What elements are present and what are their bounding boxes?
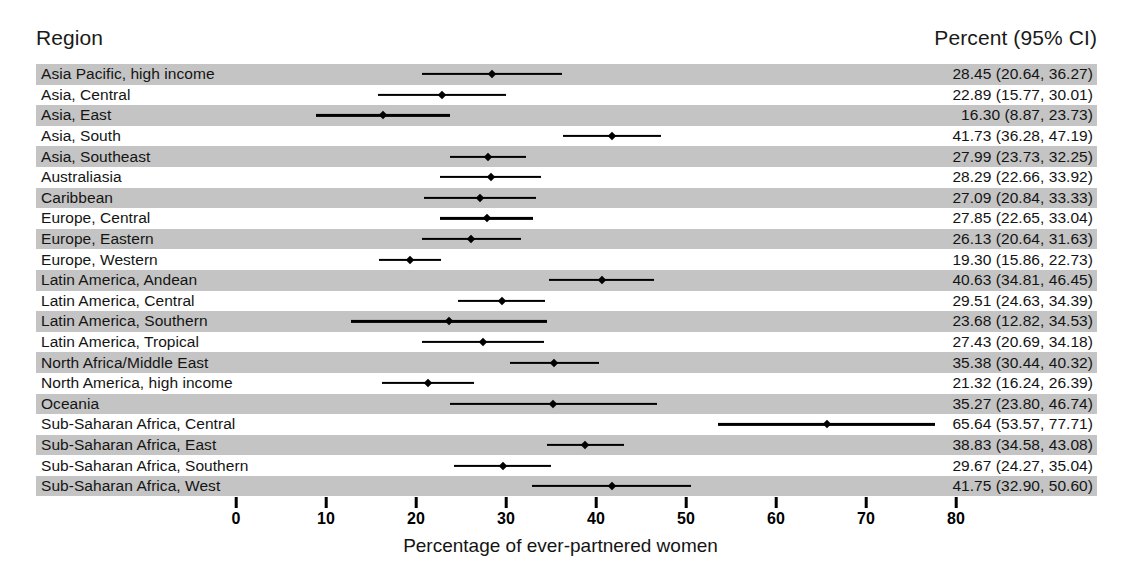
- forest-rows: Asia Pacific, high income28.45 (20.64, 3…: [0, 64, 1121, 496]
- forest-row: Latin America, Southern23.68 (12.82, 34.…: [0, 311, 1121, 332]
- percent-ci-value: 29.67 (24.27, 35.04): [952, 457, 1093, 475]
- percent-ci-value: 19.30 (15.86, 22.73): [952, 251, 1093, 269]
- region-label: Asia, Southeast: [41, 148, 150, 166]
- region-label: North America, high income: [41, 374, 233, 392]
- forest-row: Asia Pacific, high income28.45 (20.64, 3…: [0, 64, 1121, 85]
- row-band: [36, 208, 1097, 229]
- percent-ci-value: 27.09 (20.84, 33.33): [952, 189, 1093, 207]
- header-region-label: Region: [36, 26, 103, 50]
- forest-row: Asia, East16.30 (8.87, 23.73): [0, 105, 1121, 126]
- forest-row: Sub-Saharan Africa, East38.83 (34.58, 43…: [0, 435, 1121, 456]
- forest-row: Asia, Southeast27.99 (23.73, 32.25): [0, 146, 1121, 167]
- forest-row: North Africa/Middle East35.38 (30.44, 40…: [0, 352, 1121, 373]
- percent-ci-value: 28.45 (20.64, 36.27): [952, 65, 1093, 83]
- row-band: [36, 105, 1097, 126]
- region-label: Asia, East: [41, 106, 111, 124]
- percent-ci-value: 27.85 (22.65, 33.04): [952, 209, 1093, 227]
- region-label: Sub-Saharan Africa, West: [41, 477, 220, 495]
- row-band: [36, 167, 1097, 188]
- forest-row: Oceania35.27 (23.80, 46.74): [0, 394, 1121, 415]
- region-label: Asia Pacific, high income: [41, 65, 215, 83]
- forest-row: Sub-Saharan Africa, Central65.64 (53.57,…: [0, 414, 1121, 435]
- region-label: Europe, Western: [41, 251, 158, 269]
- percent-ci-value: 23.68 (12.82, 34.53): [952, 312, 1093, 330]
- percent-ci-value: 35.38 (30.44, 40.32): [952, 354, 1093, 372]
- forest-row: Latin America, Andean40.63 (34.81, 46.45…: [0, 270, 1121, 291]
- row-band: [36, 291, 1097, 312]
- percent-ci-value: 40.63 (34.81, 46.45): [952, 271, 1093, 289]
- percent-ci-value: 21.32 (16.24, 26.39): [952, 374, 1093, 392]
- forest-row: Sub-Saharan Africa, West41.75 (32.90, 50…: [0, 476, 1121, 497]
- region-label: Sub-Saharan Africa, Central: [41, 415, 235, 433]
- axis-tick: [955, 497, 958, 508]
- region-label: Asia, South: [41, 127, 121, 145]
- axis-tick-label: 60: [767, 510, 785, 528]
- region-label: Europe, Central: [41, 209, 150, 227]
- region-label: Europe, Eastern: [41, 230, 154, 248]
- axis-tick: [415, 497, 418, 508]
- x-axis: Percentage of ever-partnered women 01020…: [0, 497, 1121, 571]
- forest-row: Europe, Central27.85 (22.65, 33.04): [0, 208, 1121, 229]
- axis-tick: [685, 497, 688, 508]
- axis-tick-label: 50: [677, 510, 695, 528]
- percent-ci-value: 27.43 (20.69, 34.18): [952, 333, 1093, 351]
- forest-row: Asia, South41.73 (36.28, 47.19): [0, 126, 1121, 147]
- percent-ci-value: 26.13 (20.64, 31.63): [952, 230, 1093, 248]
- forest-row: Latin America, Central29.51 (24.63, 34.3…: [0, 291, 1121, 312]
- axis-tick: [775, 497, 778, 508]
- region-label: Oceania: [41, 395, 99, 413]
- region-label: Australiasia: [41, 168, 122, 186]
- row-band: [36, 85, 1097, 106]
- forest-row: Caribbean27.09 (20.84, 33.33): [0, 188, 1121, 209]
- x-axis-title: Percentage of ever-partnered women: [0, 535, 1121, 557]
- axis-tick: [865, 497, 868, 508]
- region-label: Latin America, Andean: [41, 271, 197, 289]
- axis-tick-label: 10: [317, 510, 335, 528]
- header-percent-label: Percent (95% CI): [934, 26, 1097, 50]
- axis-tick: [325, 497, 328, 508]
- region-label: Sub-Saharan Africa, Southern: [41, 457, 248, 475]
- axis-tick-label: 80: [947, 510, 965, 528]
- forest-row: Europe, Eastern26.13 (20.64, 31.63): [0, 229, 1121, 250]
- region-label: Asia, Central: [41, 86, 130, 104]
- percent-ci-value: 38.83 (34.58, 43.08): [952, 436, 1093, 454]
- region-label: Latin America, Central: [41, 292, 195, 310]
- region-label: North Africa/Middle East: [41, 354, 208, 372]
- axis-tick-label: 40: [587, 510, 605, 528]
- axis-tick-label: 30: [497, 510, 515, 528]
- row-band: [36, 188, 1097, 209]
- percent-ci-value: 29.51 (24.63, 34.39): [952, 292, 1093, 310]
- forest-row: Australiasia28.29 (22.66, 33.92): [0, 167, 1121, 188]
- axis-tick: [235, 497, 238, 508]
- percent-ci-value: 41.73 (36.28, 47.19): [952, 127, 1093, 145]
- row-band: [36, 249, 1097, 270]
- row-band: [36, 146, 1097, 167]
- region-label: Latin America, Southern: [41, 312, 208, 330]
- region-label: Caribbean: [41, 189, 113, 207]
- forest-row: Sub-Saharan Africa, Southern29.67 (24.27…: [0, 455, 1121, 476]
- axis-tick: [505, 497, 508, 508]
- region-label: Sub-Saharan Africa, East: [41, 436, 216, 454]
- percent-ci-value: 65.64 (53.57, 77.71): [952, 415, 1093, 433]
- forest-row: North America, high income21.32 (16.24, …: [0, 373, 1121, 394]
- percent-ci-value: 16.30 (8.87, 23.73): [961, 106, 1093, 124]
- percent-ci-value: 41.75 (32.90, 50.60): [952, 477, 1093, 495]
- axis-tick: [595, 497, 598, 508]
- forest-row: Asia, Central22.89 (15.77, 30.01): [0, 85, 1121, 106]
- forest-row: Latin America, Tropical27.43 (20.69, 34.…: [0, 332, 1121, 353]
- percent-ci-value: 22.89 (15.77, 30.01): [952, 86, 1093, 104]
- forest-plot: Region Percent (95% CI) Asia Pacific, hi…: [0, 0, 1121, 571]
- axis-tick-label: 20: [407, 510, 425, 528]
- axis-tick-label: 0: [232, 510, 241, 528]
- forest-row: Europe, Western19.30 (15.86, 22.73): [0, 249, 1121, 270]
- row-band: [36, 229, 1097, 250]
- percent-ci-value: 28.29 (22.66, 33.92): [952, 168, 1093, 186]
- axis-tick-label: 70: [857, 510, 875, 528]
- percent-ci-value: 35.27 (23.80, 46.74): [952, 395, 1093, 413]
- column-headers: Region Percent (95% CI): [0, 26, 1121, 60]
- percent-ci-value: 27.99 (23.73, 32.25): [952, 148, 1093, 166]
- region-label: Latin America, Tropical: [41, 333, 199, 351]
